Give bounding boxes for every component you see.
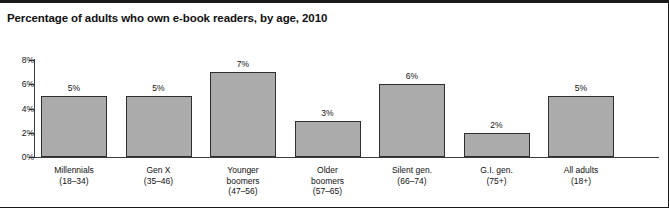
bar (210, 72, 276, 157)
x-axis-category-label: Silent gen. (66–74) (370, 165, 454, 186)
y-axis-tick-label: 6% (9, 80, 34, 89)
x-axis-category-label: All adults (18+) (539, 165, 623, 186)
y-axis-tick-4: 8% (0, 60, 34, 61)
bar-value-label: 5% (561, 84, 601, 93)
bar-value-label: 3% (308, 109, 348, 118)
x-axis-category-label: G.I. gen. (75+) (455, 165, 539, 186)
bar (295, 121, 361, 157)
plot-area: 0%2%4%6%8%5%Millennials (18–34)5%Gen X (… (0, 0, 669, 208)
x-axis-category-label: Millennials (18–34) (32, 165, 116, 186)
bar-value-label: 5% (54, 84, 94, 93)
y-axis-tick-label: 0% (9, 153, 34, 162)
y-axis-tick-1: 2% (0, 133, 34, 134)
bar-value-label: 5% (139, 84, 179, 93)
y-axis-tick-3: 6% (0, 84, 34, 85)
y-axis-tick-2: 4% (0, 109, 34, 110)
bar-value-label: 7% (223, 60, 263, 69)
bar (41, 96, 107, 157)
chart-figure: Percentage of adults who own e-book read… (0, 0, 669, 208)
x-axis-baseline (34, 157, 659, 158)
x-axis-category-label: Gen X (35–46) (117, 165, 201, 186)
x-axis-category-label: Younger boomers (47–56) (201, 165, 285, 197)
y-axis-tick-label: 2% (9, 129, 34, 138)
y-axis-tick-0: 0% (0, 157, 34, 158)
bar-value-label: 6% (392, 72, 432, 81)
bar (548, 96, 614, 157)
bar (379, 84, 445, 157)
bar (126, 96, 192, 157)
y-axis-line (34, 59, 35, 158)
y-axis-tick-label: 4% (9, 105, 34, 114)
x-axis-category-label: Older boomers (57–65) (286, 165, 370, 197)
y-axis-tick-label: 8% (9, 56, 34, 65)
bar-value-label: 2% (477, 121, 517, 130)
bar (464, 133, 530, 157)
